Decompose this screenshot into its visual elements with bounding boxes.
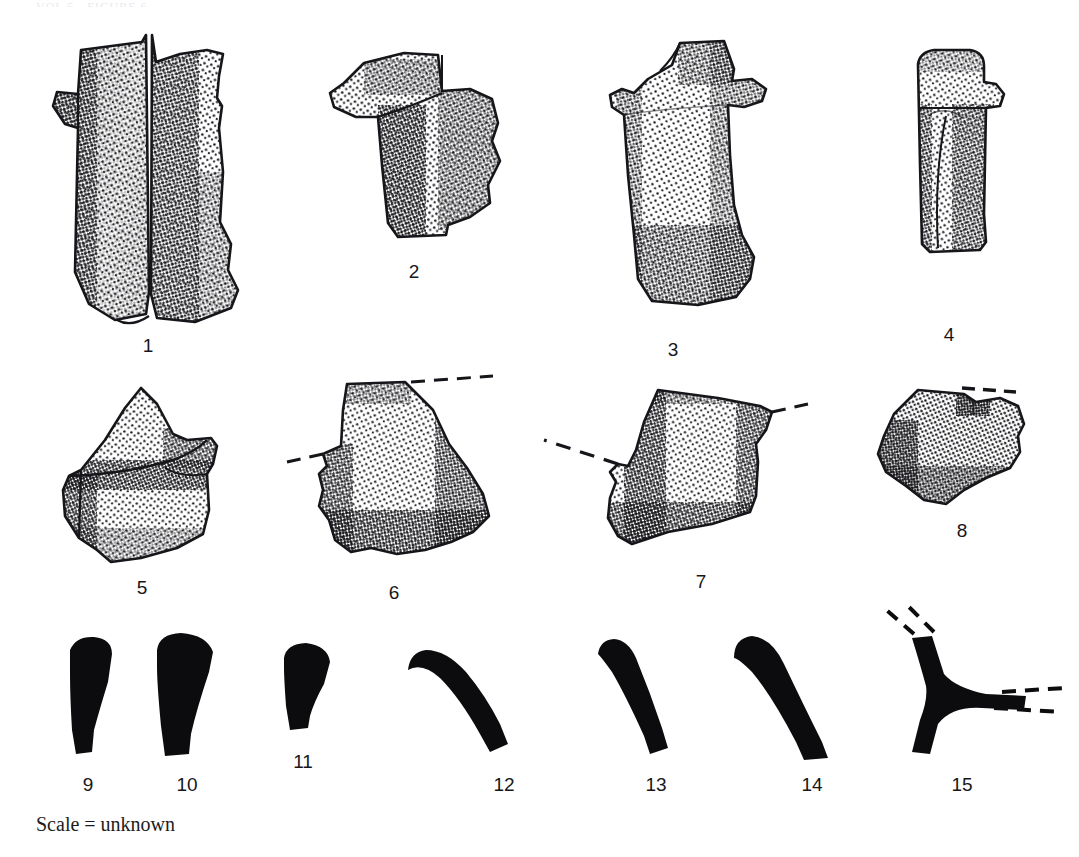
dashed-reconstruction-line	[544, 440, 618, 464]
figure-1	[45, 32, 270, 332]
dashed-reconstruction-line	[772, 404, 808, 412]
figure-13	[588, 634, 688, 760]
figure-7	[560, 378, 810, 568]
dashed-reconstruction-line	[906, 604, 934, 632]
illustration-plate: VOL 5 - FIGURE 6	[0, 0, 1079, 857]
figure-12	[400, 638, 540, 758]
figure-number-15: 15	[951, 775, 972, 794]
figure-number-9: 9	[83, 775, 94, 794]
dashed-reconstruction-line	[287, 454, 323, 462]
figure-number-11: 11	[293, 752, 313, 771]
figure-number-1: 1	[143, 336, 154, 355]
figure-number-14: 14	[801, 775, 822, 794]
dashed-reconstruction-line	[411, 376, 493, 382]
figure-number-13: 13	[645, 775, 666, 794]
figure-number-12: 12	[493, 775, 514, 794]
figure-11	[272, 640, 342, 736]
figure-number-6: 6	[389, 583, 400, 602]
figure-15	[890, 612, 1065, 762]
figure-5	[45, 378, 260, 578]
dashed-reconstruction-line	[1002, 688, 1064, 692]
figure-2	[320, 45, 515, 260]
figure-number-4: 4	[944, 325, 955, 344]
dashed-reconstruction-line	[994, 708, 1062, 712]
figure-4	[900, 44, 1020, 294]
figure-6	[285, 370, 525, 580]
cropped-header-text: VOL 5 - FIGURE 6	[36, 0, 266, 7]
figure-number-8: 8	[957, 521, 968, 540]
dashed-reconstruction-line	[962, 388, 1016, 392]
figure-number-10: 10	[176, 775, 197, 794]
figure-3	[600, 35, 800, 325]
figure-number-7: 7	[696, 572, 707, 591]
figure-14	[722, 630, 852, 762]
figure-8	[860, 380, 1050, 525]
figure-10	[143, 630, 233, 762]
figure-number-5: 5	[137, 578, 148, 597]
scale-caption: Scale = unknown	[36, 812, 175, 836]
figure-number-2: 2	[409, 262, 420, 281]
figure-9	[50, 634, 130, 760]
figure-number-3: 3	[668, 340, 679, 359]
dashed-reconstruction-line	[884, 608, 914, 634]
